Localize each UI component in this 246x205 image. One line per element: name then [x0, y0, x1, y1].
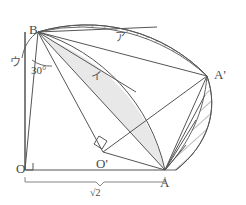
line-B-to-O: [25, 32, 38, 170]
point-label-A: A: [160, 176, 169, 189]
region-label-u-arc: ウ: [10, 57, 21, 68]
length-brace-OA: [25, 177, 165, 186]
diagram-canvas: B A A' O O' 30° ア イ ウ √2: [0, 0, 246, 205]
point-label-O: O: [16, 162, 25, 175]
shaded-sector-region: [38, 19, 189, 170]
point-label-O-prime: O': [96, 157, 108, 170]
length-label-OA: √2: [90, 188, 101, 198]
angle-label-30-degrees: 30°: [31, 65, 46, 76]
point-label-A-prime: A': [214, 68, 226, 81]
point-label-B: B: [29, 23, 38, 36]
region-label-a-hatched: ア: [115, 32, 126, 43]
right-angle-marker-O: [26, 163, 33, 170]
region-label-i-shaded: イ: [91, 71, 102, 82]
